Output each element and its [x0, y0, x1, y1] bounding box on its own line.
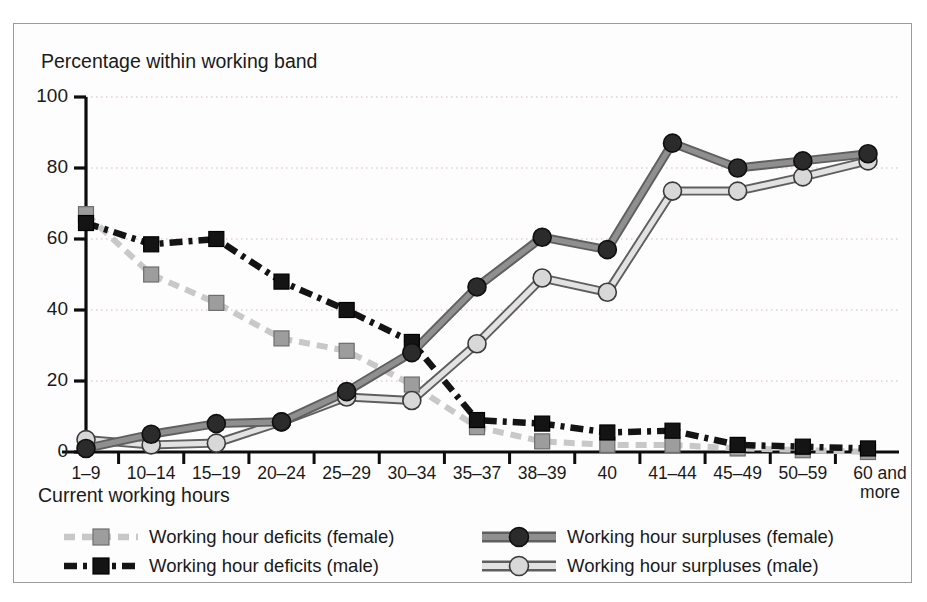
data-point-deficits_female — [339, 343, 354, 358]
series-line-outline-surpluses_male — [86, 161, 868, 445]
data-point-deficits_female — [274, 331, 289, 346]
series-line-surpluses_male — [86, 161, 868, 445]
data-point-deficits_female — [144, 267, 159, 282]
data-point-deficits_male — [600, 425, 615, 440]
legend-item-deficits_female[interactable]: Working hour deficits (female) — [62, 524, 394, 550]
data-point-surpluses_female — [207, 415, 225, 433]
y-tick-label: 20 — [22, 369, 68, 391]
y-tick-label: 0 — [22, 440, 68, 462]
data-point-surpluses_male — [403, 392, 421, 410]
y-tick-label: 40 — [22, 298, 68, 320]
data-point-surpluses_female — [859, 145, 877, 163]
data-point-deficits_male — [144, 237, 159, 252]
data-point-deficits_male — [730, 437, 745, 452]
x-tick-label: 60 andmore — [838, 464, 922, 502]
data-point-surpluses_female — [273, 413, 291, 431]
data-point-surpluses_female — [533, 228, 551, 246]
plot-area — [0, 0, 927, 602]
data-point-deficits_male — [470, 413, 485, 428]
legend-marker-surpluses_female — [510, 528, 529, 547]
x-tick-label: 50–59 — [761, 464, 845, 483]
data-point-surpluses_female — [598, 241, 616, 259]
data-point-deficits_male — [274, 274, 289, 289]
data-point-deficits_female — [404, 377, 419, 392]
legend-label-deficits_female: Working hour deficits (female) — [149, 526, 394, 548]
x-axis-title: Current working hours — [38, 484, 230, 507]
chart-legend: Working hour deficits (female)Working ho… — [62, 524, 882, 582]
data-point-surpluses_male — [468, 335, 486, 353]
data-point-deficits_male — [665, 423, 680, 438]
data-point-surpluses_female — [729, 159, 747, 177]
data-point-surpluses_male — [664, 182, 682, 200]
legend-item-surpluses_female[interactable]: Working hour surpluses (female) — [480, 524, 834, 550]
data-point-surpluses_female — [142, 425, 160, 443]
data-point-surpluses_male — [533, 269, 551, 287]
y-tick-label: 60 — [22, 227, 68, 249]
x-tick-label-line2: more — [838, 483, 922, 502]
legend-swatch-surpluses_female — [480, 525, 558, 549]
legend-marker-deficits_male — [93, 558, 109, 574]
data-point-surpluses_female — [77, 439, 95, 457]
data-point-surpluses_female — [794, 152, 812, 170]
data-point-surpluses_female — [664, 134, 682, 152]
data-point-deficits_male — [79, 216, 94, 231]
data-point-deficits_female — [535, 434, 550, 449]
data-point-surpluses_male — [729, 182, 747, 200]
chart-figure: Percentage within working band 100806040… — [0, 0, 927, 602]
legend-swatch-deficits_male — [62, 554, 140, 578]
legend-swatch-surpluses_male — [480, 554, 558, 578]
legend-label-deficits_male: Working hour deficits (male) — [149, 555, 379, 577]
legend-label-surpluses_female: Working hour surpluses (female) — [567, 526, 834, 548]
data-point-deficits_female — [665, 437, 680, 452]
data-point-surpluses_female — [468, 278, 486, 296]
data-point-deficits_male — [209, 232, 224, 247]
data-point-deficits_male — [339, 303, 354, 318]
data-point-surpluses_female — [403, 344, 421, 362]
x-tick-label-line1: 60 and — [838, 464, 922, 483]
legend-label-surpluses_male: Working hour surpluses (male) — [567, 555, 819, 577]
data-point-deficits_male — [861, 441, 876, 456]
legend-item-deficits_male[interactable]: Working hour deficits (male) — [62, 553, 379, 579]
legend-marker-deficits_female — [93, 529, 109, 545]
legend-marker-surpluses_male — [510, 557, 529, 576]
y-tick-label: 80 — [22, 156, 68, 178]
data-point-deficits_male — [795, 439, 810, 454]
legend-item-surpluses_male[interactable]: Working hour surpluses (male) — [480, 553, 819, 579]
data-point-deficits_female — [209, 295, 224, 310]
y-tick-label: 100 — [22, 85, 68, 107]
data-point-surpluses_male — [207, 434, 225, 452]
data-point-surpluses_male — [598, 283, 616, 301]
legend-swatch-deficits_female — [62, 525, 140, 549]
data-point-surpluses_female — [338, 383, 356, 401]
data-point-deficits_male — [535, 416, 550, 431]
